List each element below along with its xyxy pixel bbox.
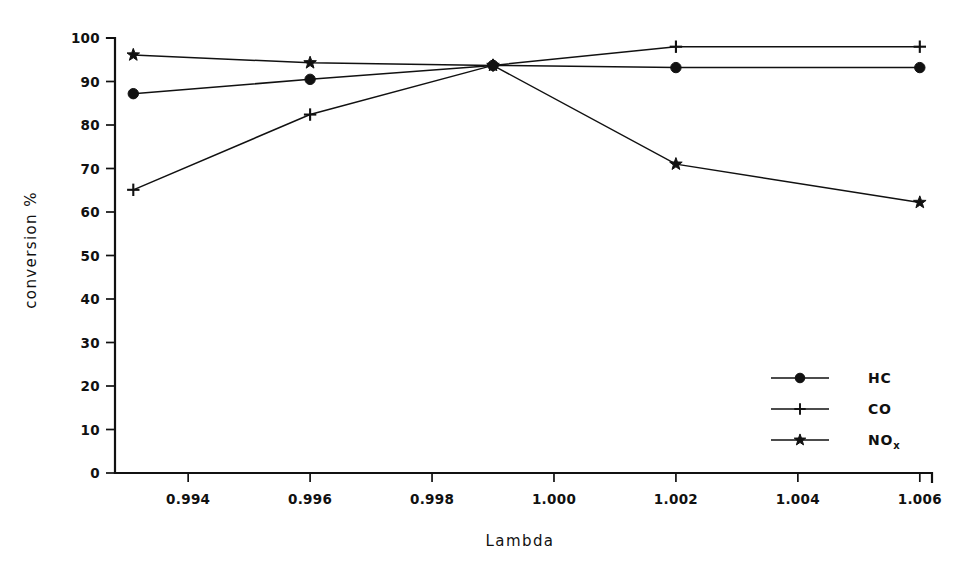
- line-chart-plot: 0102030405060708090100 0.9940.9960.9981.…: [0, 0, 980, 574]
- marker-plus: [794, 403, 805, 414]
- x-axis-ticks: [188, 473, 920, 482]
- marker-filled-circle: [305, 74, 315, 84]
- x-tick-label: 0.998: [410, 491, 454, 507]
- y-tick-label: 30: [81, 335, 100, 351]
- x-tick-label: 0.994: [166, 491, 210, 507]
- y-tick-label: 40: [81, 291, 100, 307]
- y-tick-label: 0: [90, 465, 100, 481]
- legend-item-hc[interactable]: HC: [771, 370, 892, 386]
- y-tick-label: 10: [81, 422, 100, 438]
- marker-filled-circle: [671, 62, 681, 72]
- marker-plus: [304, 108, 316, 120]
- series-line-nox: [133, 55, 920, 202]
- series-hc: [128, 60, 925, 99]
- marker-filled-circle: [128, 88, 138, 98]
- x-axis-tick-labels: 0.9940.9960.9981.0001.0021.0041.006: [166, 491, 942, 507]
- marker-plus: [127, 184, 139, 196]
- y-tick-label: 80: [81, 117, 100, 133]
- y-tick-label: 70: [81, 161, 100, 177]
- marker-plus: [670, 41, 682, 53]
- marker-star: [304, 56, 317, 68]
- data-series-group: [127, 41, 926, 208]
- marker-filled-circle: [795, 373, 805, 383]
- marker-plus: [914, 41, 926, 53]
- chart-figure: 0102030405060708090100 0.9940.9960.9981.…: [0, 0, 980, 574]
- legend-item-nox[interactable]: NOx: [771, 432, 900, 451]
- y-axis-title: conversion %: [22, 191, 40, 309]
- marker-star: [670, 158, 683, 170]
- series-nox: [127, 48, 926, 207]
- x-axis-title: Lambda: [486, 532, 555, 550]
- legend-label: CO: [868, 401, 892, 417]
- y-axis-tick-labels: 0102030405060708090100: [71, 30, 100, 481]
- y-axis-ticks: [106, 38, 115, 473]
- chart-legend: HCCONOx: [771, 370, 900, 451]
- legend-label: NOx: [868, 432, 900, 451]
- x-tick-label: 0.996: [288, 491, 332, 507]
- axes-group: [107, 38, 932, 482]
- marker-filled-circle: [915, 62, 925, 72]
- marker-star: [794, 434, 806, 445]
- x-tick-label: 1.006: [898, 491, 942, 507]
- y-tick-label: 90: [81, 74, 100, 90]
- y-tick-label: 60: [81, 204, 100, 220]
- x-axis-line: [115, 473, 932, 482]
- series-line-hc: [133, 65, 920, 93]
- x-tick-label: 1.000: [532, 491, 576, 507]
- y-tick-label: 100: [71, 30, 100, 46]
- x-tick-label: 1.002: [654, 491, 698, 507]
- legend-label: HC: [868, 370, 892, 386]
- series-co: [127, 41, 926, 197]
- y-tick-label: 50: [81, 248, 100, 264]
- legend-item-co[interactable]: CO: [771, 401, 892, 417]
- marker-star: [127, 48, 140, 60]
- marker-star: [914, 196, 927, 208]
- x-tick-label: 1.004: [776, 491, 820, 507]
- legend-label-subscript: x: [893, 440, 900, 451]
- y-tick-label: 20: [81, 378, 100, 394]
